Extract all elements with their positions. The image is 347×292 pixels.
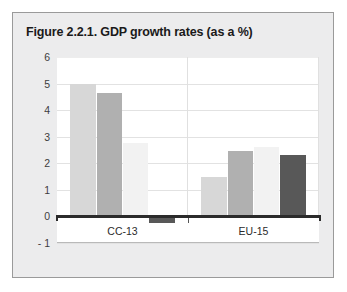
bar-eu-15-series-2 — [228, 151, 254, 216]
y-tick-label-1: 1 — [44, 184, 50, 196]
gridline-5 — [57, 84, 319, 85]
figure-panel: Figure 2.2.1. GDP growth rates (as a %) … — [12, 12, 334, 278]
gridline-6 — [57, 57, 319, 58]
y-tick-label-3: 3 — [44, 131, 50, 143]
y-tick-label-2: 2 — [44, 157, 50, 169]
y-tick-label-5: 5 — [44, 78, 50, 90]
figure-title: Figure 2.2.1. GDP growth rates (as a %) — [26, 25, 253, 39]
category-label-cc-13: CC-13 — [107, 225, 137, 237]
group-divider-2 — [318, 57, 319, 216]
bar-cc-13-series-1 — [70, 84, 96, 217]
chart-plot-area: 6543210- 1 — [57, 57, 319, 243]
y-tick-label--1: - 1 — [38, 237, 50, 249]
y-tick-label-6: 6 — [44, 51, 50, 63]
category-label-eu-15: EU-15 — [239, 225, 269, 237]
category-band-underline — [57, 242, 319, 243]
bar-cc-13-series-3 — [123, 143, 149, 216]
bar-eu-15-series-1 — [201, 177, 227, 217]
y-tick-label-0: 0 — [44, 210, 50, 222]
bar-eu-15-series-3 — [254, 147, 280, 216]
y-tick-label-4: 4 — [44, 104, 50, 116]
bar-eu-15-series-4 — [280, 155, 306, 216]
axis-end-tick-left — [56, 215, 58, 221]
group-divider-1 — [187, 57, 188, 216]
bar-cc-13-series-2 — [97, 93, 123, 217]
axis-end-tick-right — [319, 215, 321, 221]
category-tick-1 — [188, 218, 189, 223]
